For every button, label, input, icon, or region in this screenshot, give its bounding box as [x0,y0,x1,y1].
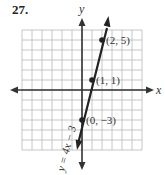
points: (2, 5)(1, 1)(0, −3) [79,34,130,127]
point-label: (0, −3) [86,114,116,127]
y-axis-top-arrow-icon [79,18,86,26]
coordinate-graph: x y (2, 5)(1, 1)(0, −3) y = 4x − 3 [0,0,165,175]
axes: x y [10,2,162,170]
x-axis-label: x [155,83,162,97]
point-marker [79,117,85,123]
point-label: (2, 5) [106,34,130,47]
y-axis-label: y [78,2,85,16]
x-axis-right-arrow-icon [146,87,154,94]
point-marker [89,77,95,83]
x-axis-left-arrow-icon [10,87,18,94]
point-marker [99,37,105,43]
y-axis-bottom-arrow-icon [79,162,86,170]
point-label: (1, 1) [96,74,120,87]
equation-label: y = 4x − 3 [54,124,78,174]
line-top-arrow-icon [104,16,111,27]
